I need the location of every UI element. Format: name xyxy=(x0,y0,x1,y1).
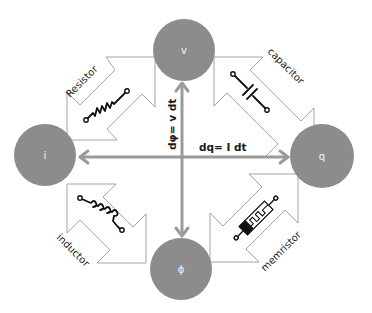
memristor-label: memristor xyxy=(259,228,304,273)
node-q-label: q xyxy=(319,151,325,162)
relation-dphi-label: dφ= v dt xyxy=(166,99,178,150)
relation-dq-label: dq= I dt xyxy=(199,141,247,153)
node-i-label: i xyxy=(44,150,47,161)
node-i: i xyxy=(14,124,76,186)
node-phi: ϕ xyxy=(150,238,212,300)
node-v: v xyxy=(153,19,215,81)
horizontal-double-arrow xyxy=(80,151,288,163)
node-phi-label: ϕ xyxy=(178,264,185,275)
resistor-arrow xyxy=(67,57,155,140)
capacitor-label: capacitor xyxy=(266,46,307,87)
circuit-elements-diagram: v i q ϕ dφ= v dt dq= I dt Resistor capac… xyxy=(0,0,372,313)
node-v-label: v xyxy=(181,45,187,56)
node-q: q xyxy=(290,124,354,188)
inductor-label: inductor xyxy=(55,232,93,270)
